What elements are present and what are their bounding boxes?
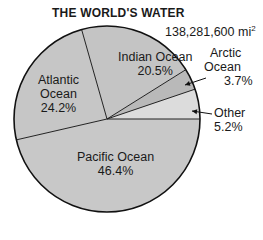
label-arctic-line2: Ocean [204, 60, 253, 74]
label-arctic-line1: Arctic [204, 46, 253, 60]
label-atlantic-line1: Atlantic [38, 73, 79, 87]
label-pacific-pct: 46.4% [77, 164, 154, 178]
label-indian-pct: 20.5% [118, 64, 192, 78]
label-atlantic-pct: 24.2% [38, 101, 79, 115]
label-other-pct: 5.2% [214, 120, 245, 134]
label-other: Other 5.2% [214, 106, 245, 134]
label-indian-ocean: Indian Ocean 20.5% [118, 50, 192, 78]
label-atlantic-line2: Ocean [38, 87, 79, 101]
label-arctic-pct: 3.7% [204, 74, 253, 88]
label-other-name: Other [214, 106, 245, 120]
label-indian-name: Indian Ocean [118, 50, 192, 64]
label-pacific-ocean: Pacific Ocean 46.4% [77, 150, 154, 178]
label-pacific-name: Pacific Ocean [77, 150, 154, 164]
label-atlantic-ocean: Atlantic Ocean 24.2% [38, 73, 79, 115]
label-arctic-ocean: Arctic Ocean 3.7% [204, 46, 253, 88]
